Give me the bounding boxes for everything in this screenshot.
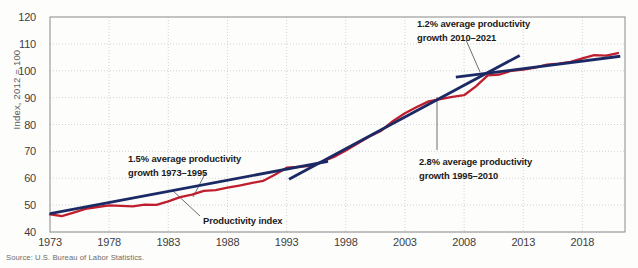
x-tick-label: 2018 <box>552 236 612 248</box>
annotation-growth-1973-1995-line1: 1.5% average productivity <box>128 152 241 166</box>
x-tick-label: 2008 <box>434 236 494 248</box>
annotation-productivity-index: Productivity index <box>203 214 282 228</box>
trend-2010-2021 <box>456 56 620 77</box>
annotation-growth-1973-1995: 1.5% average productivity growth 1973–19… <box>128 152 241 179</box>
x-tick-label: 1993 <box>257 236 317 248</box>
source-note: Source: U.S. Bureau of Labor Statistics. <box>6 253 144 262</box>
leader-2010-2021 <box>466 40 480 72</box>
x-tick-label: 1998 <box>316 236 376 248</box>
x-tick-label: 2003 <box>375 236 435 248</box>
annotation-growth-1973-1995-line2: growth 1973–1995 <box>128 166 241 180</box>
x-tick-label: 1978 <box>79 236 139 248</box>
annotation-growth-2010-2021: 1.2% average productivity growth 2010–20… <box>417 17 530 44</box>
plot-canvas <box>0 0 638 268</box>
x-tick-label: 2013 <box>493 236 553 248</box>
plot-border <box>50 17 625 232</box>
chart-figure: Index, 2012 = 100 120110100908070605040 … <box>0 0 638 268</box>
x-tick-label: 1988 <box>197 236 257 248</box>
annotation-growth-1995-2010-line1: 2.8% average productivity <box>419 155 532 169</box>
annotation-growth-1995-2010-line2: growth 1995–2010 <box>419 169 532 183</box>
annotation-growth-2010-2021-line2: growth 2010–2021 <box>417 31 530 45</box>
x-tick-label: 1973 <box>20 236 80 248</box>
annotation-growth-1995-2010: 2.8% average productivity growth 1995–20… <box>419 155 532 182</box>
annotation-productivity-index-line1: Productivity index <box>203 214 282 228</box>
series-productivity-index <box>50 53 618 216</box>
x-tick-label: 1983 <box>138 236 198 248</box>
annotation-growth-2010-2021-line1: 1.2% average productivity <box>417 17 530 31</box>
